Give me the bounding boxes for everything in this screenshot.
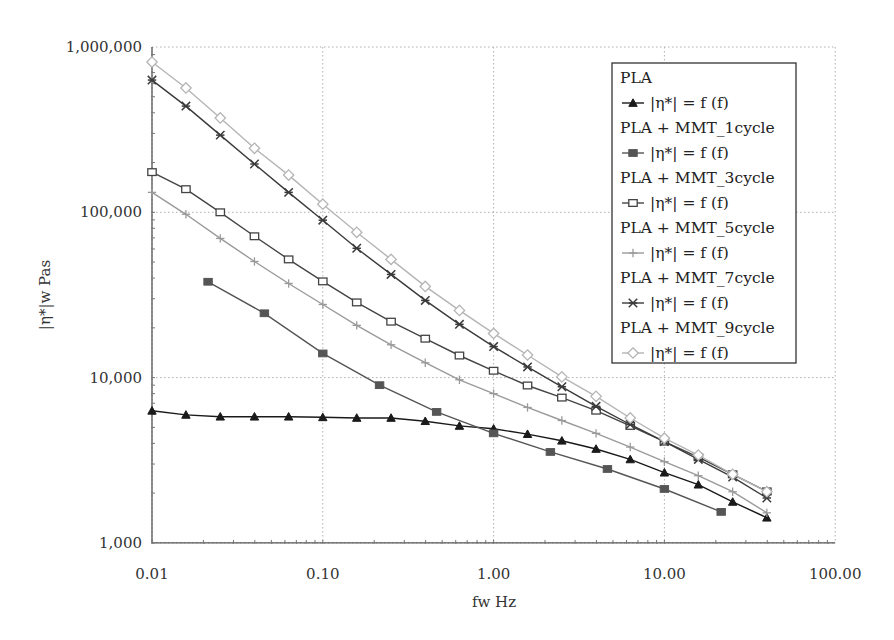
y-axis-tick-labels: 1,00010,000100,0001,000,000 [66,38,142,552]
asterisk-marker-icon [523,363,531,371]
series-pla [148,407,771,522]
asterisk-marker-icon [455,320,463,328]
square-open-marker-icon [284,256,292,263]
plus-marker-icon [558,416,566,424]
square-open-marker-icon [216,209,224,216]
square-open-marker-icon [489,367,497,374]
y-tick-label: 100,000 [80,203,142,221]
diamond-open-marker-icon [147,57,157,67]
viscosity-chart: 0.010.101.0010.00100.00 1,00010,000100,0… [0,0,894,640]
square-filled-marker-icon [717,509,725,516]
x-tick-label: 1.00 [477,565,510,583]
legend-series-label: |η*| = f (f) [650,94,729,112]
legend-series-label: |η*| = f (f) [650,244,729,262]
diamond-open-marker-icon [591,391,601,401]
square-filled-marker-icon [260,310,268,317]
square-filled-marker-icon [489,430,497,437]
plus-marker-icon [489,389,497,397]
square-open-marker-icon [148,169,156,176]
square-filled-marker-icon [660,486,668,493]
diamond-open-marker-icon [454,305,464,315]
plus-marker-icon [626,443,634,451]
asterisk-marker-icon [421,296,429,304]
legend-group-label: PLA + MMT_5cycle [620,219,775,237]
plus-marker-icon [284,279,292,287]
square-filled-marker-icon [432,409,440,416]
plus-marker-icon [387,341,395,349]
plus-marker-icon [319,300,327,308]
plus-marker-icon [353,321,361,329]
plus-marker-icon [250,257,258,265]
plus-marker-icon [592,429,600,437]
square-filled-marker-icon [629,150,637,157]
square-filled-marker-icon [546,449,554,456]
square-open-marker-icon [558,394,566,401]
square-open-marker-icon [421,335,429,342]
plus-marker-icon [148,188,156,196]
square-filled-marker-icon [603,466,611,473]
y-tick-label: 10,000 [90,369,143,387]
legend-group-label: PLA + MMT_3cycle [620,169,775,187]
square-open-marker-icon [387,318,395,325]
plus-marker-icon [728,488,736,496]
square-open-marker-icon [250,233,258,240]
legend: PLA|η*| = f (f)PLA + MMT_1cycle|η*| = f … [612,63,796,363]
plus-marker-icon [523,403,531,411]
legend-series-label: |η*| = f (f) [650,194,729,212]
square-open-marker-icon [319,278,327,285]
square-open-marker-icon [353,299,361,306]
legend-series-label: |η*| = f (f) [650,294,729,312]
plus-marker-icon [421,359,429,367]
asterisk-marker-icon [216,131,224,139]
legend-group-label: PLA + MMT_1cycle [620,119,775,137]
square-open-marker-icon [182,186,190,193]
diamond-open-marker-icon [557,372,567,382]
y-tick-label: 1,000,000 [66,38,142,56]
x-tick-label: 10.00 [643,565,686,583]
x-axis-title: fw Hz [472,593,516,611]
plus-marker-icon [455,376,463,384]
legend-group-label: PLA + MMT_7cycle [620,269,775,287]
diamond-open-marker-icon [488,328,498,338]
legend-group-label: PLA + MMT_9cycle [620,319,775,337]
plus-marker-icon [694,471,702,479]
x-tick-label: 100.00 [809,565,862,583]
legend-group-label: PLA [620,69,653,87]
legend-series-label: |η*| = f (f) [650,344,729,362]
square-filled-marker-icon [375,382,383,389]
square-filled-marker-icon [319,350,327,357]
diamond-open-marker-icon [522,350,532,360]
square-open-marker-icon [629,200,637,207]
asterisk-marker-icon [387,270,395,278]
triangle-filled-marker-icon [728,498,736,506]
asterisk-marker-icon [250,160,258,168]
triangle-filled-marker-icon [148,407,156,415]
plus-marker-icon [660,457,668,465]
asterisk-marker-icon [182,102,190,110]
y-tick-label: 1,000 [99,534,142,552]
x-tick-label: 0.10 [306,565,339,583]
x-tick-label: 0.01 [135,565,168,583]
y-axis-title: |η*|w Pas [36,260,54,330]
asterisk-marker-icon [353,244,361,252]
square-open-marker-icon [455,352,463,359]
asterisk-marker-icon [284,188,292,196]
legend-series-label: |η*| = f (f) [650,144,729,162]
asterisk-marker-icon [558,383,566,391]
square-filled-marker-icon [204,278,212,285]
x-axis-tick-labels: 0.010.101.0010.00100.00 [135,565,861,583]
square-open-marker-icon [523,382,531,389]
